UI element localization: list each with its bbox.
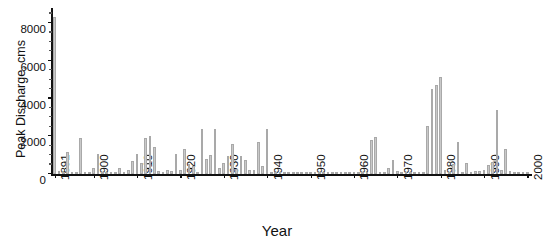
bar — [110, 172, 113, 174]
bar — [435, 85, 438, 174]
bar — [444, 170, 447, 174]
bar — [504, 149, 507, 174]
bar — [105, 172, 108, 174]
y-axis-minor-tick — [49, 154, 52, 155]
y-axis-minor-tick — [49, 50, 52, 51]
bar — [166, 170, 169, 174]
bar — [439, 77, 442, 174]
bar — [305, 172, 308, 174]
bar — [452, 164, 455, 174]
bar — [470, 172, 473, 174]
x-axis-tick — [441, 174, 442, 178]
bar — [274, 172, 277, 174]
bar — [75, 172, 78, 174]
bar — [461, 172, 464, 174]
bar — [261, 166, 264, 174]
x-axis-title: Year — [0, 222, 554, 239]
bar — [140, 163, 143, 174]
y-axis-minor-tick — [49, 88, 52, 89]
bar — [244, 160, 247, 174]
bar — [214, 129, 217, 174]
bar — [118, 168, 121, 174]
bar — [353, 172, 356, 174]
y-axis-minor-tick — [49, 107, 52, 108]
bar — [270, 172, 273, 174]
bar — [340, 172, 343, 174]
y-axis-minor-tick — [49, 31, 52, 32]
bar — [175, 154, 178, 174]
y-axis-minor-tick — [49, 126, 52, 127]
bar — [322, 172, 325, 174]
bar — [266, 129, 269, 174]
bar — [279, 172, 282, 174]
bar — [448, 172, 451, 174]
x-axis-tick — [55, 174, 56, 178]
x-axis-tick-label: 1920 — [185, 154, 197, 180]
bar — [491, 162, 494, 174]
bar — [218, 168, 221, 174]
bar — [84, 172, 87, 174]
bar — [201, 129, 204, 174]
bar — [483, 170, 486, 174]
bar — [153, 147, 156, 174]
bar — [426, 126, 429, 174]
bar — [170, 171, 173, 174]
x-axis-tick-label: 1990 — [489, 154, 501, 180]
bar — [183, 149, 186, 174]
bar — [92, 168, 95, 174]
bar — [487, 165, 490, 174]
y-axis-minor-tick — [49, 116, 52, 117]
bar — [222, 163, 225, 174]
bar — [62, 172, 65, 174]
bar — [418, 172, 421, 174]
bar — [136, 154, 139, 174]
x-axis-tick — [137, 174, 138, 178]
bar — [192, 166, 195, 174]
x-axis-tick — [527, 174, 528, 178]
bar — [300, 172, 303, 174]
y-axis-minor-tick — [49, 12, 52, 13]
bar — [522, 172, 525, 174]
plot-area: 0200040006000800018911900191019201930194… — [52, 8, 530, 174]
bar — [188, 164, 191, 174]
bar — [205, 159, 208, 174]
bar — [53, 17, 56, 174]
x-axis-tick-label: 1930 — [228, 154, 240, 180]
bar — [209, 155, 212, 174]
y-axis-minor-tick — [49, 145, 52, 146]
bar — [253, 170, 256, 174]
bar — [231, 144, 234, 174]
x-axis-tick-label: 1960 — [358, 154, 370, 180]
bar — [318, 172, 321, 174]
x-axis-tick — [484, 174, 485, 178]
bar — [144, 138, 147, 174]
x-axis-tick-label: 1970 — [402, 154, 414, 180]
bar — [383, 172, 386, 174]
bar — [374, 137, 377, 174]
bar — [88, 172, 91, 174]
x-axis-tick-label: 1980 — [445, 154, 457, 180]
bar — [314, 172, 317, 174]
bar — [162, 172, 165, 174]
bar — [79, 138, 82, 174]
bar — [509, 171, 512, 174]
bar — [379, 172, 382, 174]
bar — [357, 172, 360, 174]
bar — [431, 89, 434, 174]
bar — [344, 172, 347, 174]
y-axis-minor-tick — [49, 163, 52, 164]
x-axis-tick-label: 1891 — [59, 154, 71, 180]
x-axis-tick — [94, 174, 95, 178]
x-axis-tick — [311, 174, 312, 178]
bar — [400, 172, 403, 174]
bar — [309, 172, 312, 174]
x-axis-tick — [354, 174, 355, 178]
y-axis-minor-tick — [49, 41, 52, 42]
bar — [283, 172, 286, 174]
y-axis-tick — [48, 173, 53, 174]
bar — [292, 172, 295, 174]
bar — [517, 172, 520, 174]
y-axis-tick — [48, 97, 53, 98]
bar — [101, 172, 104, 174]
bar — [361, 172, 364, 174]
